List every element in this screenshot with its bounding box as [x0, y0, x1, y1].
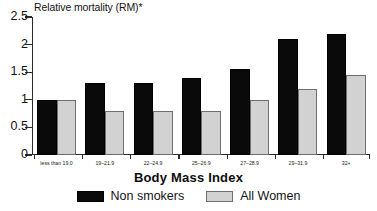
bar-non-smokers [230, 69, 250, 155]
y-axis-tick-label: 2.5 [0, 9, 28, 23]
x-axis-tick-label: 19–21.9 [81, 160, 129, 166]
bar-all-women [298, 89, 318, 155]
bar-group [327, 17, 366, 155]
bar-group [278, 17, 317, 155]
y-axis-tick-label: 1 [0, 92, 28, 106]
bar-all-women [153, 111, 173, 155]
x-axis-tick [275, 155, 276, 159]
legend-swatch-icon [77, 191, 104, 202]
bar-non-smokers [278, 39, 298, 155]
x-axis-tick [369, 155, 370, 159]
x-axis-tick [227, 155, 228, 159]
x-axis-tick-label: 29–31.9 [274, 160, 322, 166]
x-axis-tick [323, 155, 324, 159]
x-axis-tick-label: 22–24.9 [129, 160, 177, 166]
legend-label: All Women [240, 189, 300, 203]
legend-label: Non smokers [111, 189, 185, 203]
plot-area: 00.511.522.5 [32, 17, 370, 155]
x-axis-tick-label: 27–28.9 [226, 160, 274, 166]
bar-group [85, 17, 124, 155]
bar-non-smokers [37, 100, 57, 155]
bar-group [182, 17, 221, 155]
legend-swatch-icon [206, 191, 233, 202]
bar-group [134, 17, 173, 155]
bar-groups [33, 17, 370, 155]
bar-non-smokers [134, 83, 154, 155]
bar-all-women [201, 111, 221, 155]
bar-group [230, 17, 269, 155]
y-axis-tick-label: 1.5 [0, 64, 28, 78]
bar-group [37, 17, 76, 155]
y-axis-title: Relative mortality (RM)* [34, 1, 142, 13]
bar-all-women [105, 111, 125, 155]
legend-item: All Women [206, 189, 300, 203]
relative-mortality-bar-chart: Relative mortality (RM)* 00.511.522.5 le… [0, 0, 377, 211]
x-axis-tick [178, 155, 179, 159]
chart-legend: Non smokersAll Women [0, 189, 377, 203]
y-axis-tick-label: 0 [0, 147, 28, 161]
x-axis-tick-label: less than 19.0 [33, 160, 81, 166]
bar-non-smokers [327, 34, 347, 155]
bar-non-smokers [85, 83, 105, 155]
legend-item: Non smokers [77, 189, 185, 203]
bar-all-women [57, 100, 77, 155]
x-axis-tick-label: 25–26.9 [177, 160, 225, 166]
x-axis-tick [34, 155, 35, 159]
y-axis-tick-label: 2 [0, 37, 28, 51]
x-axis-tick-label: 32+ [322, 160, 370, 166]
y-axis-tick-label: 0.5 [0, 119, 28, 133]
x-axis-title: Body Mass Index [0, 170, 377, 185]
bar-all-women [346, 75, 366, 155]
bar-non-smokers [182, 78, 202, 155]
bar-all-women [250, 100, 270, 155]
x-axis-tick [82, 155, 83, 159]
x-axis-tick [130, 155, 131, 159]
